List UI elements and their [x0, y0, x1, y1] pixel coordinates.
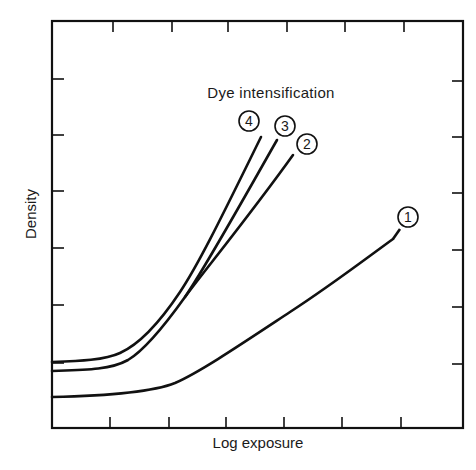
y-ticks-right [452, 81, 463, 364]
y-axis-label: Density [22, 188, 39, 239]
curve-label-1: 1 [393, 207, 418, 239]
y-ticks-left [52, 79, 64, 363]
x-axis-label: Log exposure [213, 434, 304, 451]
curves [52, 137, 393, 397]
curve-label-3: 3 [275, 116, 295, 136]
x-ticks-bottom [110, 417, 401, 428]
curve-label-4: 4 [239, 111, 259, 131]
curve-2 [185, 155, 293, 297]
curve-4-label: 4 [245, 113, 253, 129]
curve-1 [52, 239, 393, 397]
curve-3-label: 3 [281, 118, 289, 134]
characteristic-curve-chart: 4 3 2 1 Dye intensification Log exposure… [0, 0, 476, 470]
x-ticks-top [113, 21, 404, 32]
curve-label-2: 2 [297, 134, 317, 154]
curve-4 [52, 137, 261, 362]
curve-1-label: 1 [404, 209, 412, 225]
annotation-dye-intensification: Dye intensification [207, 84, 334, 101]
curve-2-label: 2 [303, 136, 311, 152]
